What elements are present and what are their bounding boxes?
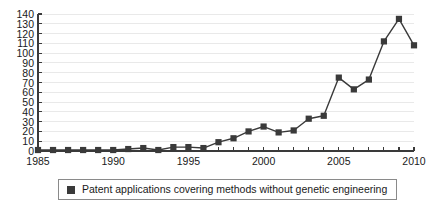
x-tick-label: 1990 <box>102 156 125 167</box>
x-tick-label: 1995 <box>177 156 200 167</box>
x-tick-label: 2005 <box>327 156 350 167</box>
chart-container: 0102030405060708090100110120130140 19851… <box>0 0 427 209</box>
x-tick-label: 2000 <box>252 156 275 167</box>
chart-legend: Patent applications covering methods wit… <box>58 179 397 200</box>
legend-item-label: Patent applications covering methods wit… <box>82 184 387 195</box>
x-tick-label: 2010 <box>402 156 425 167</box>
x-axis-tick-labels: 198519901995200020052010 <box>0 0 427 209</box>
legend-swatch-icon <box>67 186 75 194</box>
x-tick-label: 1985 <box>26 156 49 167</box>
